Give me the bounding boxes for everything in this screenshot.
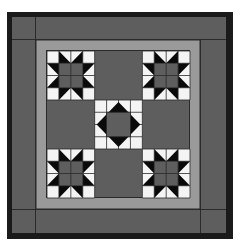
quilt-block-sawtooth-star xyxy=(142,51,190,100)
quilt-block-sawtooth-star xyxy=(142,149,190,198)
quilt-diagram xyxy=(0,0,242,248)
quilt-block-sawtooth-star xyxy=(47,51,95,100)
quilt-block-square-in-square xyxy=(95,100,143,149)
quilt-block-sawtooth-star xyxy=(47,149,95,198)
